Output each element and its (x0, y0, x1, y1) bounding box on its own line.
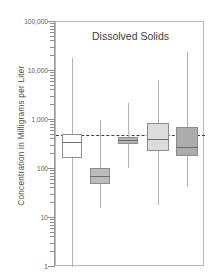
y-tick-label: 1 (44, 263, 48, 270)
boxplot-box (176, 22, 198, 265)
y-tick-major (48, 266, 55, 267)
y-tick-label: 1,000 (31, 116, 48, 123)
y-tick-major (48, 21, 55, 22)
y-tick-major (48, 217, 55, 218)
y-tick-label: 100 (37, 165, 48, 172)
whisker-line (72, 58, 73, 267)
median-line (118, 140, 138, 141)
median-line (147, 139, 169, 140)
plot-area: Dissolved Solids (55, 21, 204, 266)
boxplot-box (90, 22, 110, 265)
box-iqr (147, 123, 169, 151)
y-tick-major (48, 70, 55, 71)
y-tick-major (48, 119, 55, 120)
whisker-line (187, 52, 188, 188)
y-tick-label: 100,000 (24, 18, 48, 25)
boxplot-box (118, 22, 138, 265)
boxplot-box (147, 22, 169, 265)
box-iqr (176, 127, 198, 156)
median-line (62, 142, 82, 143)
whisker-line (100, 120, 101, 208)
y-axis-title: Concentration in Milligrams per Liter (17, 41, 26, 231)
y-tick-label: 10 (41, 214, 48, 221)
median-line (90, 176, 110, 177)
y-tick-label: 10,000 (28, 67, 48, 74)
chart-figure: Concentration in Milligrams per Liter 10… (0, 0, 215, 275)
box-iqr (62, 134, 82, 158)
median-line (176, 147, 198, 148)
y-tick-major (48, 168, 55, 169)
boxplot-box (62, 22, 82, 265)
